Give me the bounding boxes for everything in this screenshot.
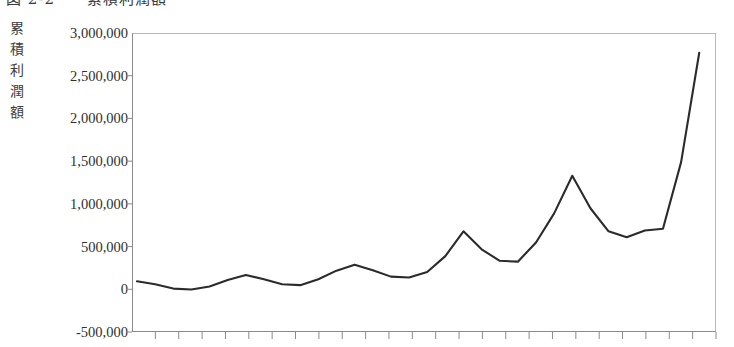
figure-container: 図 2-2 累積利潤額 累 積 利 潤 額 3,000,0002,500,000… xyxy=(0,0,734,347)
y-axis-title: 累 積 利 潤 額 xyxy=(4,18,30,123)
y-axis-tick-label: 1,500,000 xyxy=(36,154,128,169)
y-axis-tick-label: 1,000,000 xyxy=(36,197,128,212)
plot-area xyxy=(132,33,716,332)
y-axis-title-char: 潤 xyxy=(4,81,30,102)
y-axis-tick-label: -500,000 xyxy=(36,325,128,340)
y-axis-tick-label: 0 xyxy=(36,282,128,297)
y-axis-title-char: 利 xyxy=(4,60,30,81)
y-axis-title-char: 累 xyxy=(4,18,30,39)
y-axis-title-char: 積 xyxy=(4,39,30,60)
y-axis-tick-labels: 3,000,0002,500,0002,000,0001,500,0001,00… xyxy=(34,0,128,347)
y-axis-tick-label: 500,000 xyxy=(36,240,128,255)
y-axis-tick-label: 3,000,000 xyxy=(36,26,128,41)
y-axis-title-char: 額 xyxy=(4,102,30,123)
y-axis-tick-label: 2,000,000 xyxy=(36,111,128,126)
y-axis-tick-label: 2,500,000 xyxy=(36,69,128,84)
x-axis-ticks xyxy=(155,332,716,339)
line-chart-svg xyxy=(133,34,717,333)
data-series-line xyxy=(137,53,699,290)
